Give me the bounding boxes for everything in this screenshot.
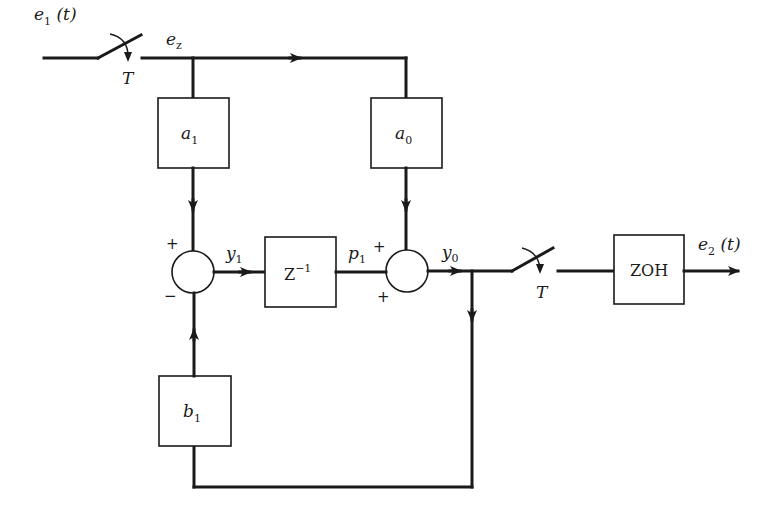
block-b1 bbox=[159, 376, 231, 446]
sign-s2-left: + bbox=[373, 238, 386, 256]
sign-s1-top: + bbox=[166, 235, 179, 253]
label-e1t: e1 (t) bbox=[34, 4, 77, 28]
label-T-out: T bbox=[536, 282, 549, 302]
summing-junction-2 bbox=[386, 250, 428, 292]
label-T-in: T bbox=[122, 68, 135, 88]
output-sampler bbox=[512, 248, 614, 274]
block-a1 bbox=[158, 98, 229, 168]
label-p1: p1 bbox=[348, 243, 366, 266]
sign-s2-bottom: + bbox=[377, 288, 390, 306]
block-a0 bbox=[371, 98, 442, 168]
label-y1: y1 bbox=[225, 243, 243, 266]
label-e2t: e2 (t) bbox=[698, 234, 741, 258]
sign-s1-bottom: − bbox=[164, 287, 177, 305]
label-y0: y0 bbox=[441, 242, 459, 265]
input-sampler bbox=[44, 34, 141, 62]
summing-junction-1 bbox=[172, 251, 214, 293]
top-signal-path bbox=[142, 58, 406, 98]
label-ez: ez bbox=[166, 29, 182, 52]
label-zoh: ZOH bbox=[630, 261, 668, 280]
block-diagram: e1 (t) T ez a1 a0 b1 Z−1 ZOH + − + + y1 … bbox=[0, 0, 769, 513]
